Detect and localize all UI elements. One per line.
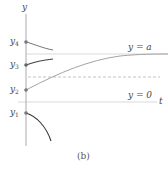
point-y1 [24,111,28,115]
diagram-canvas [0,0,168,172]
y1-label: y1 [10,108,19,118]
y4-sub: 4 [15,40,19,47]
y4-label: y4 [10,37,19,47]
y3-label: y3 [10,60,19,70]
t-axis-label: t [159,97,163,106]
y2-label: y2 [10,85,19,95]
y1-sub: 1 [15,111,19,118]
point-y2 [24,88,28,92]
y2-sub: 2 [15,88,19,95]
y3-sub: 3 [15,63,19,70]
curve-y4 [26,42,53,50]
phase-diagram-figure: y y4 y3 y2 y1 y = a y = 0 t (b) [0,0,168,172]
figure-caption: (b) [77,152,90,161]
point-y3 [24,63,28,67]
point-y4 [24,40,28,44]
line-0-label: y = 0 [128,91,152,100]
line-a-label: y = a [128,43,152,52]
y-axis-label: y [22,3,27,12]
curve-y3 [26,59,53,65]
curve-y1 [26,113,51,141]
